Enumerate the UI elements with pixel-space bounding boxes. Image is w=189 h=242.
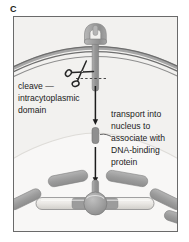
cleave-annotation-line3: domain	[18, 105, 46, 115]
transport-annotation-line5: protein	[111, 157, 137, 167]
transport-annotation-line4: DNA-binding	[111, 145, 160, 155]
cleave-annotation-line2: intracytoplasmic	[18, 93, 80, 103]
cleave-annotation-line1: cleave —	[18, 81, 54, 91]
diagram-canvas: cleave — intracytoplasmic domain transpo…	[14, 17, 177, 231]
receptor-cap-notch	[93, 25, 98, 35]
figure-frame: cleave — intracytoplasmic domain transpo…	[13, 16, 178, 232]
receptor-stem	[92, 41, 98, 91]
dna-binding-protein	[84, 192, 107, 215]
transport-annotation-line1: transport into	[111, 109, 161, 119]
panel-label: C	[10, 4, 17, 14]
cleaved-intracytoplasmic-domain	[92, 128, 99, 144]
transport-annotation-line3: associate with	[111, 133, 165, 143]
transport-annotation-line2: nucleus to	[111, 121, 150, 131]
receptor-shoulder	[85, 39, 107, 44]
